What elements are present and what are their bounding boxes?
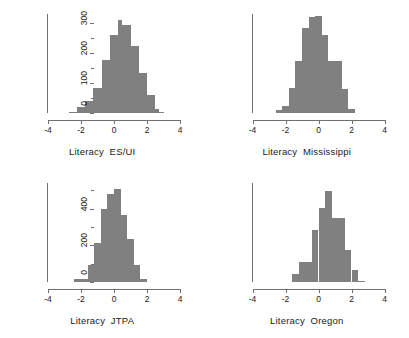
x-tick-label: -4	[243, 295, 263, 304]
histogram-bar	[94, 243, 101, 282]
y-tick-major	[90, 282, 94, 283]
x-tick-label: -4	[38, 126, 58, 135]
y-tick-minor	[91, 98, 94, 99]
x-tick	[180, 120, 181, 124]
histogram-bar	[338, 218, 345, 282]
histogram-bar	[121, 215, 128, 282]
x-tick	[114, 289, 115, 293]
x-tick-label: -2	[71, 295, 91, 304]
histogram-bar	[74, 279, 81, 282]
x-tick	[385, 289, 386, 293]
plot-area	[253, 14, 385, 113]
x-tick	[180, 289, 181, 293]
y-tick-major	[90, 83, 94, 84]
histogram-bar	[312, 230, 319, 282]
y-tick-minor	[91, 38, 94, 39]
histogram-bar	[289, 88, 296, 114]
panel-caption: Literacy Oregon	[205, 315, 409, 326]
histogram-bar	[295, 61, 302, 114]
y-tick-minor	[91, 190, 94, 191]
x-tick-label: -2	[276, 126, 296, 135]
histogram-bar	[88, 265, 95, 282]
x-tick	[352, 289, 353, 293]
x-tick	[286, 289, 287, 293]
histogram-panel-bottom-left: 0200400-4-2024Literacy JTPA	[0, 169, 205, 338]
x-tick-label: 2	[137, 126, 157, 135]
x-tick	[114, 120, 115, 124]
y-tick-minor	[91, 227, 94, 228]
y-tick-label: 200	[80, 41, 89, 55]
y-axis-labels: 0200400	[0, 169, 47, 338]
panel-caption: Literacy Mississippi	[205, 146, 409, 157]
x-tick-label: -4	[243, 126, 263, 135]
y-axis-labels: 0100200300	[205, 0, 252, 169]
x-tick-label: 4	[170, 295, 190, 304]
y-axis-labels: 0200400600	[0, 0, 47, 169]
histogram-bar	[305, 262, 312, 282]
histogram-bar	[282, 106, 289, 114]
histogram-panel-top-left: 0200400600-4-2024Literacy ES/UI	[0, 0, 205, 169]
y-tick-major	[90, 53, 94, 54]
histogram-bar	[134, 265, 141, 282]
x-tick	[385, 120, 386, 124]
histogram-bar	[319, 208, 326, 282]
histogram-bar	[315, 16, 322, 113]
histogram-bar	[292, 274, 299, 282]
x-tick-label: 4	[375, 295, 395, 304]
x-tick-label: 2	[342, 295, 362, 304]
histogram-bar	[107, 194, 114, 282]
histogram-bar	[309, 17, 316, 113]
y-tick-label: 0	[80, 270, 89, 275]
histogram-bar	[299, 262, 306, 282]
x-tick-label: 0	[309, 126, 329, 135]
y-tick-major	[90, 245, 94, 246]
x-tick	[81, 120, 82, 124]
histogram-bar	[140, 279, 147, 282]
histogram-bar	[81, 279, 88, 282]
y-tick-label: 400	[80, 197, 89, 211]
histogram-bar	[342, 89, 349, 113]
histogram-grid: 0200400600-4-2024Literacy ES/UI010020030…	[0, 0, 409, 338]
histogram-panel-bottom-right: 0200400-4-2024Literacy Oregon	[205, 169, 409, 338]
histogram-bar	[335, 61, 342, 114]
y-tick-minor	[91, 68, 94, 69]
histogram-panel-top-right: 0100200300-4-2024Literacy Mississippi	[205, 0, 409, 169]
x-tick	[81, 289, 82, 293]
panel-caption: Literacy ES/UI	[0, 146, 205, 157]
histogram-bar	[127, 239, 134, 282]
x-tick	[48, 120, 49, 124]
histogram-bar	[101, 209, 108, 282]
histogram-bar	[348, 109, 355, 114]
x-tick	[286, 120, 287, 124]
x-tick	[319, 289, 320, 293]
x-tick-label: 2	[137, 295, 157, 304]
x-tick-label: 2	[342, 126, 362, 135]
histogram-bar	[276, 110, 283, 113]
plot-area	[253, 183, 385, 282]
histogram-bar	[302, 28, 309, 114]
x-tick	[147, 289, 148, 293]
y-tick-major	[90, 23, 94, 24]
x-tick-label: 4	[170, 126, 190, 135]
histogram-bar	[352, 270, 359, 282]
x-tick	[319, 120, 320, 124]
x-tick-label: 0	[309, 295, 329, 304]
histogram-bar	[159, 112, 163, 113]
x-tick-label: 0	[104, 295, 124, 304]
histogram-bar	[322, 35, 329, 113]
y-tick-major	[90, 209, 94, 210]
histogram-bar	[114, 189, 121, 283]
y-tick-label: 100	[80, 71, 89, 85]
x-tick	[253, 120, 254, 124]
y-tick-label: 0	[80, 101, 89, 106]
x-tick-label: -2	[71, 126, 91, 135]
histogram-bar	[325, 191, 332, 282]
histogram-bar	[358, 281, 365, 282]
panel-caption: Literacy JTPA	[0, 315, 205, 326]
histogram-bar	[328, 61, 335, 114]
y-axis-labels: 0200400	[205, 169, 252, 338]
x-tick-label: -2	[276, 295, 296, 304]
x-tick-label: -4	[38, 295, 58, 304]
x-tick-label: 4	[375, 126, 395, 135]
y-tick-label: 300	[80, 11, 89, 25]
